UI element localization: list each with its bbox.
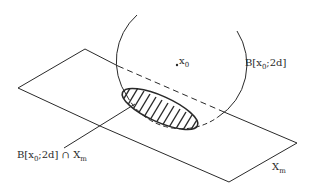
ball-label: B[x0;2d] [245, 58, 286, 68]
center-point-name: x [179, 55, 185, 66]
diagram-svg [0, 0, 314, 192]
plane-edge-back-left [18, 49, 118, 88]
plane-label: Xm [272, 162, 286, 172]
plane-label-sub: m [279, 167, 286, 175]
intersection-label-prefix: B[x [17, 149, 34, 160]
diagram-canvas: x0 B[x0;2d] B[x0;2d] ∩ Xm Xm [0, 0, 314, 192]
intersection-leader-line [64, 104, 135, 148]
center-point-label: x0 [179, 56, 189, 66]
intersection-label-mid: ;2d] ∩ X [38, 149, 80, 160]
intersection-label-sub2: m [80, 155, 87, 163]
center-point-sub: 0 [185, 61, 189, 69]
plane-edge-front-left [18, 88, 100, 126]
ball-label-prefix: B[x [245, 57, 262, 68]
intersection-label-sub: 0 [34, 155, 38, 163]
ball-label-suffix: ;2d] [266, 57, 286, 68]
center-point-dot [176, 64, 178, 66]
sphere-outline-left [116, 15, 137, 96]
ball-label-sub: 0 [262, 63, 266, 71]
plane-edge-right [224, 112, 297, 182]
sphere-outline-right [218, 31, 247, 117]
intersection-label: B[x0;2d] ∩ Xm [17, 150, 87, 160]
intersection-region [117, 80, 204, 141]
